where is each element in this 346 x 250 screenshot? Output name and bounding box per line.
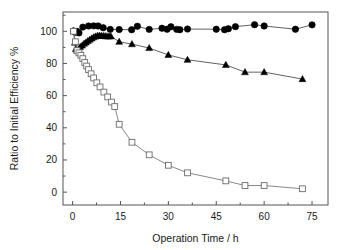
y-tick-label: 100 [40, 26, 57, 37]
x-tick-label: 45 [211, 211, 223, 222]
marker-circle [128, 26, 134, 32]
marker-circle [146, 26, 152, 32]
x-tick-label: 0 [70, 211, 76, 222]
marker-circle [213, 26, 219, 32]
y-tick-label: 0 [51, 187, 57, 198]
marker-circle [168, 24, 174, 30]
x-tick-label: 75 [306, 211, 318, 222]
marker-square [112, 104, 118, 110]
marker-circle [261, 23, 267, 29]
marker-square [223, 178, 229, 184]
chart-figure: 020406080100 01530456075 Operation Time … [0, 0, 346, 250]
marker-circle [134, 23, 140, 29]
efficiency-vs-time-chart: 020406080100 01530456075 Operation Time … [0, 0, 346, 250]
marker-circle [80, 24, 86, 30]
marker-square [185, 170, 191, 176]
marker-square [116, 121, 122, 127]
marker-circle [177, 26, 183, 32]
x-tick-label: 60 [259, 211, 271, 222]
y-tick-label: 80 [46, 58, 58, 69]
x-tick-label: 30 [163, 211, 175, 222]
marker-square [73, 39, 79, 45]
marker-circle [107, 26, 113, 32]
y-tick-label: 20 [46, 154, 58, 165]
marker-circle [184, 26, 190, 32]
marker-circle [116, 26, 122, 32]
x-tick-label: 15 [115, 211, 127, 222]
y-tick-label: 60 [46, 90, 58, 101]
marker-square [146, 152, 152, 158]
marker-circle [251, 22, 257, 28]
marker-square [165, 162, 171, 168]
marker-square [71, 28, 77, 34]
marker-square [300, 186, 306, 192]
y-tick-label: 40 [46, 122, 58, 133]
marker-circle [309, 22, 315, 28]
marker-square [129, 139, 135, 145]
marker-circle [232, 23, 238, 29]
marker-square [261, 183, 267, 189]
marker-circle [292, 26, 298, 32]
x-axis-title: Operation Time / h [152, 232, 239, 244]
marker-circle [100, 25, 106, 31]
marker-circle [225, 26, 231, 32]
y-axis-title: Ratio to Initial Efficiency % [8, 47, 20, 171]
marker-square [242, 183, 248, 189]
